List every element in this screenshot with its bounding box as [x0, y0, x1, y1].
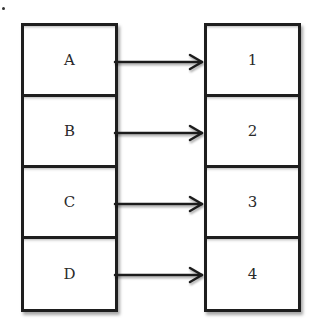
arrow-a-to-1-icon	[115, 55, 202, 69]
cell-label: 3	[248, 193, 258, 211]
left-column: A B C D	[21, 23, 118, 312]
cell-label: B	[64, 122, 75, 140]
left-cell-d: D	[24, 239, 115, 309]
cell-label: C	[64, 193, 75, 211]
left-cell-b: B	[24, 97, 115, 168]
arrow-d-to-4-icon	[115, 268, 202, 282]
arrow-c-to-3-icon	[115, 197, 202, 211]
cell-label: 2	[248, 122, 258, 140]
arrow-b-to-2-icon	[115, 126, 202, 140]
right-cell-1: 1	[207, 26, 298, 97]
cell-label: D	[63, 265, 75, 283]
cell-label: 4	[248, 265, 258, 283]
cell-label: 1	[248, 51, 258, 69]
corner-dot	[2, 7, 5, 10]
right-cell-3: 3	[207, 168, 298, 239]
left-cell-a: A	[24, 26, 115, 97]
left-cell-c: C	[24, 168, 115, 239]
right-cell-2: 2	[207, 97, 298, 168]
cell-label: A	[64, 51, 75, 69]
right-column: 1 2 3 4	[204, 23, 301, 312]
right-cell-4: 4	[207, 239, 298, 309]
